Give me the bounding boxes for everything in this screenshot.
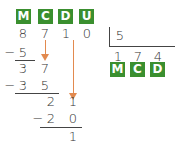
label-c: C [38,9,53,24]
dividend-digit: 8 [16,27,30,40]
subtract-digit: 0 [66,112,80,125]
remainder-digit: 7 [38,62,52,75]
division-bracket-vertical [109,27,110,47]
minus-sign: − [3,79,17,92]
subtract-digit: 5 [38,79,52,92]
subtract-line [40,127,82,128]
subtract-digit: 2 [44,112,58,125]
arrow-head-icon [41,54,49,61]
minus-sign: − [31,112,45,125]
remainder-digit: 2 [44,95,58,108]
quotient-label-d: D [150,62,165,77]
label-u: U [79,9,94,24]
label-m: M [16,9,31,24]
minus-sign: − [3,46,17,59]
dividend-digit: 1 [59,27,73,40]
dividend-digit: 0 [80,27,94,40]
subtract-digit: 5 [16,46,30,59]
quotient-label-m: M [110,62,125,77]
subtract-digit: 3 [16,79,30,92]
label-d: D [58,9,73,24]
remainder-digit: 1 [66,95,80,108]
bring-down-arrow [45,40,46,54]
quotient-label-c: C [130,62,145,77]
dividend-digit: 7 [38,27,52,40]
remainder-digit: 3 [16,62,30,75]
divisor: 5 [113,29,127,42]
final-remainder: 1 [66,130,80,143]
division-bracket-horizontal [109,46,175,47]
bring-down-arrow [73,40,74,93]
